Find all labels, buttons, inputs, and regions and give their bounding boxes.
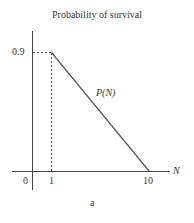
x-tick-label-1: 1 <box>49 176 54 186</box>
series-label: P(N) <box>96 88 115 98</box>
x-tick-label-10: 10 <box>143 176 153 186</box>
x-axis-label: N <box>173 166 180 176</box>
series-line-pn <box>52 53 150 172</box>
chart-plot <box>0 0 194 223</box>
y-tick-label: 0.9 <box>12 47 25 57</box>
x-tick-label-0: 0 <box>23 176 28 186</box>
figure-caption: a <box>90 198 94 208</box>
